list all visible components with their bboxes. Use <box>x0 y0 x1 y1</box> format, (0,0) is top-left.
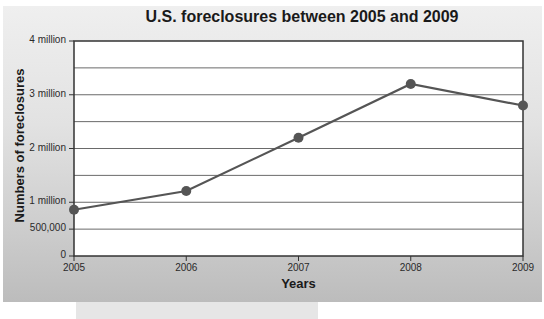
y-tick-label: 1 million <box>29 195 66 206</box>
y-tick-label: 2 million <box>29 142 66 153</box>
data-point-marker <box>406 79 416 89</box>
x-tick-label: 2009 <box>503 262 543 273</box>
data-point-marker <box>518 101 528 111</box>
x-tick-label: 2005 <box>54 262 94 273</box>
data-point-marker <box>294 133 304 143</box>
y-axis-label: Numbers of foreclosures <box>12 56 27 236</box>
y-tick-label: 500,000 <box>30 222 66 233</box>
x-tick-label: 2008 <box>391 262 431 273</box>
x-tick-label: 2006 <box>166 262 206 273</box>
x-axis-label: Years <box>74 276 523 291</box>
y-tick-label: 3 million <box>29 88 66 99</box>
x-tick-label: 2007 <box>279 262 319 273</box>
data-point-marker <box>181 186 191 196</box>
y-tick-label: 0 <box>60 249 66 260</box>
data-point-marker <box>69 205 79 215</box>
y-tick-label: 4 million <box>29 34 66 45</box>
